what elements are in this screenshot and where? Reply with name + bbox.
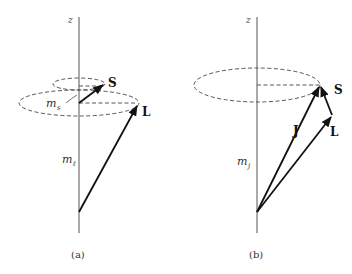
spin-vector-s-b bbox=[321, 87, 332, 115]
ms-pointer-a bbox=[66, 95, 77, 103]
label-j-b: J bbox=[292, 124, 299, 138]
label-l-a: L bbox=[142, 105, 151, 119]
panel-a: z S L m s m ℓ (a) bbox=[19, 15, 151, 260]
z-axis-label-a: z bbox=[67, 15, 73, 25]
svg-text:m: m bbox=[46, 97, 56, 110]
caption-b: (b) bbox=[249, 249, 263, 260]
vector-model-diagram: z S L m s m ℓ (a) z bbox=[0, 0, 352, 274]
panel-b: z S J L m j (b) bbox=[194, 15, 343, 260]
label-mj-b: m j bbox=[237, 155, 251, 170]
orbital-vector-l-a bbox=[79, 106, 137, 212]
label-ms-a: m s bbox=[46, 97, 61, 112]
total-vector-j-b bbox=[257, 87, 319, 212]
svg-text:s: s bbox=[57, 104, 61, 112]
label-s-a: S bbox=[108, 76, 117, 90]
svg-text:ℓ: ℓ bbox=[72, 160, 76, 168]
z-axis-label-b: z bbox=[245, 15, 251, 25]
svg-text:m: m bbox=[237, 155, 247, 168]
label-ml-a: m ℓ bbox=[62, 153, 76, 168]
svg-text:m: m bbox=[62, 153, 72, 166]
spin-vector-s-a bbox=[79, 85, 103, 103]
label-s-b: S bbox=[334, 83, 343, 97]
label-l-b: L bbox=[330, 125, 339, 139]
caption-a: (a) bbox=[71, 249, 85, 260]
